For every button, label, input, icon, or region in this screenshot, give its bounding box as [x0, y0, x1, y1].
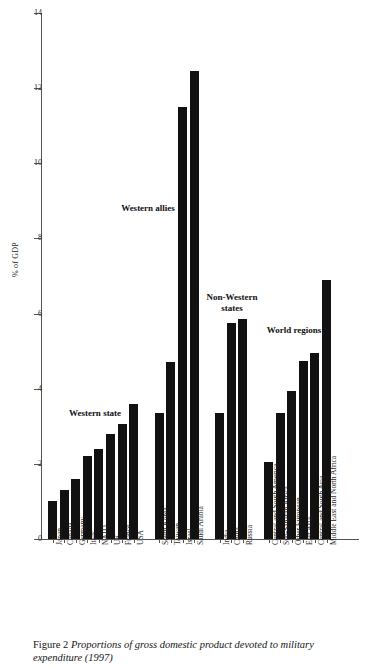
- x-tick-label: Other European: [295, 497, 303, 545]
- plot-area: [41, 13, 359, 539]
- bar: [190, 71, 199, 539]
- bar: [215, 413, 224, 539]
- y-tick-label: 10: [16, 159, 42, 167]
- x-tick-mark: [292, 539, 293, 543]
- x-tick-mark: [134, 539, 135, 543]
- bar: [129, 404, 138, 539]
- x-tick-mark: [315, 539, 316, 543]
- x-tick-mark: [76, 539, 77, 543]
- x-tick-mark: [269, 539, 270, 543]
- y-tick-label: 12: [16, 84, 42, 92]
- x-tick-label: Germany: [79, 517, 87, 545]
- group-annotation: Non-Western states: [203, 292, 261, 314]
- bar: [238, 319, 247, 539]
- x-tick-label: Central and South Asia: [318, 476, 326, 545]
- x-tick-label: USA: [137, 530, 145, 545]
- x-tick-label: Russia: [246, 525, 254, 545]
- x-tick-label: Israel: [186, 528, 194, 545]
- y-tick-label: 4: [16, 385, 42, 393]
- y-tick-label: 8: [16, 234, 42, 242]
- x-tick-mark: [171, 539, 172, 543]
- x-tick-label: Canada: [67, 523, 75, 546]
- x-tick-mark: [53, 539, 54, 543]
- y-tick-label: 14: [16, 9, 42, 17]
- bar: [227, 323, 236, 539]
- group-annotation: Western state: [69, 408, 121, 419]
- x-tick-label: France: [125, 525, 133, 545]
- bar: [178, 107, 187, 539]
- x-tick-mark: [220, 539, 221, 543]
- x-tick-label: Taiwan: [174, 523, 182, 545]
- x-tick-mark: [327, 539, 328, 543]
- group-annotation: World regions: [265, 325, 323, 336]
- x-tick-label: India: [223, 530, 231, 545]
- x-tick-mark: [99, 539, 100, 543]
- x-tick-label: Saudi Arabia: [197, 506, 205, 545]
- y-tick-label: 6: [16, 310, 42, 318]
- x-tick-mark: [183, 539, 184, 543]
- x-tick-label: Middle East and North Africa: [330, 456, 338, 545]
- x-tick-mark: [243, 539, 244, 543]
- x-tick-label: NATO: [102, 525, 110, 545]
- figure-container: % of GDP 02468101214 JapanCanadaGermanyI…: [0, 0, 365, 668]
- x-tick-label: Sub-Saharan Africa: [283, 486, 291, 545]
- caption-label: Figure 2: [33, 639, 68, 650]
- figure-caption: Figure 2 Proportions of gross domestic p…: [33, 638, 357, 664]
- x-tick-label: China: [234, 527, 242, 545]
- bar: [118, 424, 127, 539]
- x-tick-mark: [280, 539, 281, 543]
- x-tick-label: South Korea: [162, 507, 170, 545]
- x-tick-mark: [122, 539, 123, 543]
- x-tick-label: Central and South America: [272, 464, 280, 545]
- y-tick-label: 2: [16, 460, 42, 468]
- x-tick-label: East Asia: [306, 517, 314, 545]
- x-tick-label: Japan: [56, 528, 64, 545]
- y-tick-label: 0: [16, 535, 42, 543]
- group-annotation: Western allies: [121, 203, 175, 214]
- x-tick-label: Italy: [90, 531, 98, 545]
- x-tick-mark: [64, 539, 65, 543]
- bar: [106, 434, 115, 539]
- x-tick-mark: [111, 539, 112, 543]
- x-tick-label: UK: [114, 534, 122, 545]
- caption-text: Proportions of gross domestic product de…: [33, 639, 314, 663]
- x-tick-mark: [194, 539, 195, 543]
